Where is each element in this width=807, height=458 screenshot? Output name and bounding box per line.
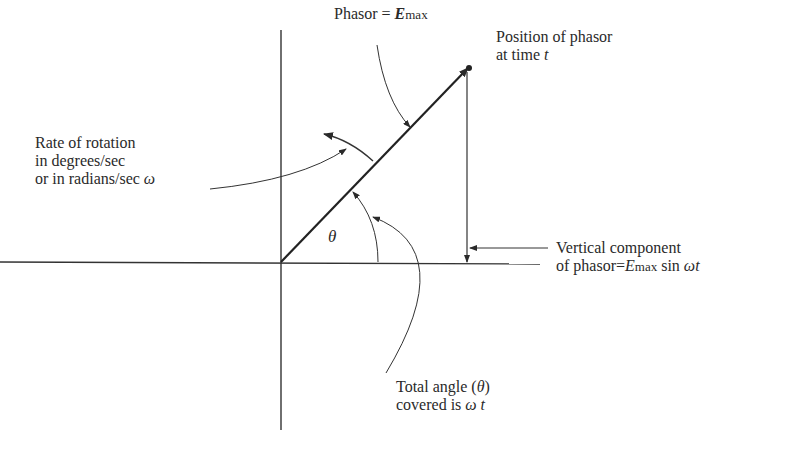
position-line2-prefix: at time <box>496 46 544 63</box>
rate-line3-prefix: or in radians/sec <box>35 170 144 187</box>
rate-line2: in degrees/sec <box>35 152 155 170</box>
position-var: t <box>544 46 548 63</box>
x-axis <box>0 262 540 264</box>
vertical-symbol: E <box>625 257 635 274</box>
total-angle-leader-curve <box>373 217 420 373</box>
rate-line1: Rate of rotation <box>35 134 155 152</box>
phasor-label-prefix: Phasor = <box>334 5 395 22</box>
total-angle-label: Total angle (θ) covered is ω t <box>396 378 490 414</box>
phasor-symbol: E <box>395 5 406 22</box>
vertical-line2-prefix: of phasor= <box>556 257 625 274</box>
phasor-subscript: max <box>405 7 427 22</box>
rate-label: Rate of rotation in degrees/sec or in ra… <box>35 134 155 188</box>
total-angle-line2-prefix: covered is <box>396 396 465 413</box>
angle-theta-label: θ <box>328 228 336 246</box>
vertical-subscript: max <box>635 259 657 274</box>
rate-leader-curve <box>210 149 346 189</box>
phasor-leader-curve <box>377 45 410 127</box>
total-angle-omega-t: ω t <box>465 396 485 413</box>
total-angle-suffix: ) <box>484 378 489 395</box>
vertical-label: Vertical component of phasor=Emax sin ωt <box>556 239 700 276</box>
rate-omega: ω <box>144 170 155 187</box>
position-line1: Position of phasor <box>496 28 612 46</box>
vertical-var: ωt <box>684 257 700 274</box>
position-label: Position of phasor at time t <box>496 28 612 64</box>
rotation-arc <box>324 134 373 161</box>
phasor-tip-dot <box>466 65 472 71</box>
total-angle-prefix: Total angle ( <box>396 378 477 395</box>
vertical-line1: Vertical component <box>556 239 700 257</box>
vertical-suffix: sin <box>657 257 684 274</box>
angle-arc <box>353 192 378 262</box>
phasor-label: Phasor = Emax <box>334 5 428 24</box>
